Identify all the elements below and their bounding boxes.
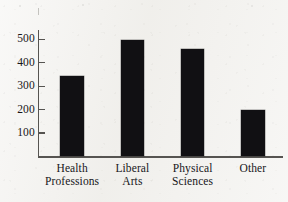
x-axis-category-label: Liberal Arts (102, 162, 162, 187)
bar (241, 110, 265, 157)
x-axis-line (38, 156, 283, 157)
y-axis-tick-label: 100 (1, 127, 35, 139)
y-axis-tick (39, 109, 45, 110)
bar (181, 49, 205, 157)
bar (60, 76, 84, 157)
y-axis-tick-label: 200 (1, 104, 35, 116)
y-axis-tick-label: 300 (1, 80, 35, 92)
plot-area: 100200300400500Health ProfessionsLiberal… (0, 0, 288, 202)
y-axis-tick (39, 39, 45, 40)
bar-chart-figure: 100200300400500Health ProfessionsLiberal… (0, 0, 288, 202)
x-axis-category-label: Health Professions (42, 162, 102, 187)
y-axis-tick-label: 500 (1, 33, 35, 45)
x-axis-category-label: Physical Sciences (163, 162, 223, 187)
y-axis-tick (39, 86, 45, 87)
y-axis-tick-label: 400 (1, 57, 35, 69)
y-axis-line (38, 30, 39, 158)
y-axis-tick (39, 132, 45, 133)
x-axis-category-label: Other (223, 162, 283, 175)
bar (121, 40, 145, 156)
y-axis-tick (39, 62, 45, 63)
